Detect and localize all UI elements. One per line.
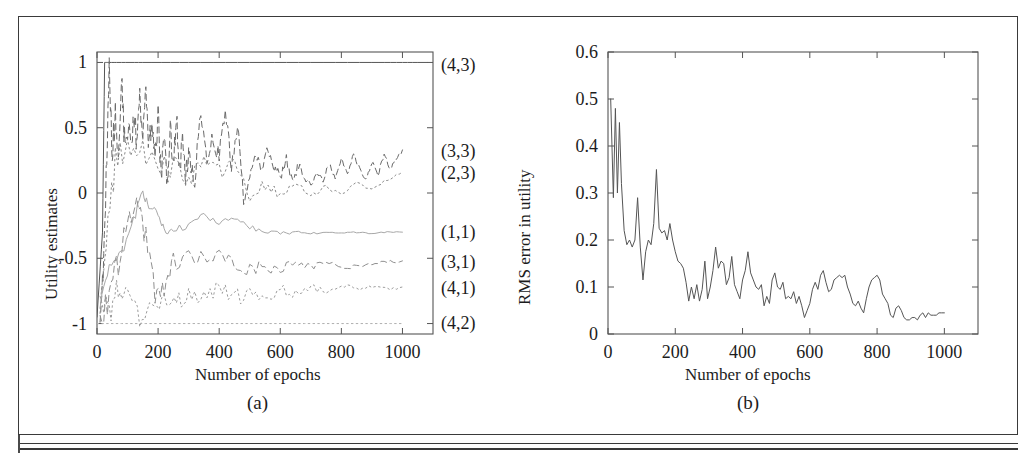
y-tick-label: 0.1: [576, 277, 599, 297]
y-tick-label: 0.3: [576, 183, 599, 203]
y-tick-label: 0: [589, 324, 598, 344]
panel-a-x-axis-label: Number of epochs: [195, 365, 321, 385]
x-tick-label: 0: [604, 342, 613, 362]
panel-b-caption: (b): [737, 392, 759, 414]
panel-b: 0200400600800100000.10.20.30.40.50.6 RMS…: [500, 0, 1000, 419]
series-line-33: [100, 58, 402, 322]
legend-label-41: (4,1): [441, 278, 476, 299]
panel-a: 02004006008001000-1-0.500.51(4,3)(3,3)(2…: [0, 0, 500, 419]
series-line-31: [100, 198, 402, 323]
x-tick-label: 600: [267, 342, 294, 362]
y-tick-label: 1: [78, 52, 87, 72]
legend-label-11: (1,1): [441, 222, 476, 243]
y-tick-label: 0: [78, 183, 87, 203]
figure-page: 02004006008001000-1-0.500.51(4,3)(3,3)(2…: [0, 0, 1033, 461]
x-tick-label: 400: [729, 342, 756, 362]
y-tick-label: -1: [72, 314, 87, 334]
footer-rule-lower: [18, 448, 1018, 450]
x-tick-label: 800: [864, 342, 891, 362]
y-tick-label: 0.5: [576, 89, 599, 109]
x-tick-label: 600: [796, 342, 823, 362]
y-tick-label: 0.4: [576, 136, 599, 156]
legend-label-42: (4,2): [441, 313, 476, 334]
legend-label-43: (4,3): [441, 55, 476, 76]
x-tick-label: 200: [145, 342, 172, 362]
x-tick-label: 200: [662, 342, 689, 362]
footer-rule-upper: [18, 443, 1018, 444]
y-tick-label: -0.5: [59, 248, 88, 268]
legend-label-31: (3,1): [441, 252, 476, 273]
x-tick-label: 400: [206, 342, 233, 362]
panel-a-y-axis-label: Utility estimates: [42, 188, 62, 300]
plot-b-canvas: 0200400600800100000.10.20.30.40.50.6: [500, 0, 1000, 419]
series-line-RMS error: [611, 99, 945, 320]
footer-left-tick: [18, 435, 20, 453]
panel-b-x-axis-label: Number of epochs: [685, 365, 811, 385]
x-tick-label: 800: [328, 342, 355, 362]
y-tick-label: 0.2: [576, 230, 599, 250]
y-tick-label: 0.5: [65, 118, 88, 138]
panel-b-y-axis-label: RMS error in utility: [515, 169, 535, 305]
legend-label-23: (2,3): [441, 163, 476, 184]
x-tick-label: 0: [93, 342, 102, 362]
series-line-11: [100, 191, 402, 308]
legend-label-33: (3,3): [441, 141, 476, 162]
series-line-41: [100, 280, 402, 327]
series-line-23: [100, 139, 402, 313]
x-tick-label: 1000: [926, 342, 962, 362]
y-tick-label: 0.6: [576, 42, 599, 62]
plot-a-canvas: 02004006008001000-1-0.500.51(4,3)(3,3)(2…: [0, 0, 500, 419]
x-tick-label: 1000: [384, 342, 420, 362]
panel-a-caption: (a): [247, 392, 268, 414]
